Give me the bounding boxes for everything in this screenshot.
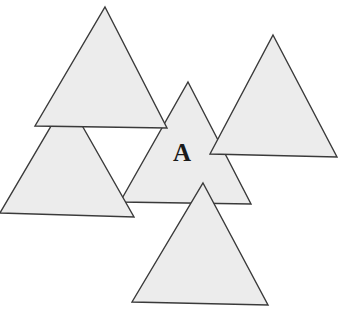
triangle-right [210, 35, 337, 157]
diagram-canvas: A [0, 0, 344, 311]
triangles-svg [0, 0, 344, 311]
triangle-top-left [35, 7, 167, 128]
center-label: A [173, 140, 191, 165]
